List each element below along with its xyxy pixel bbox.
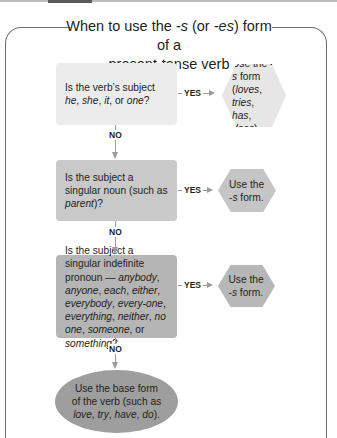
- arrow-right-icon: [209, 90, 215, 96]
- arrow-down-icon: [112, 152, 118, 159]
- text-run: Is the subject a singular noun (such as: [65, 172, 168, 196]
- text-run: each: [104, 285, 126, 296]
- text-run: form.: [238, 192, 264, 203]
- text-run: Use the base form of the verb (such as: [72, 383, 161, 407]
- yes-label: YES: [184, 280, 201, 290]
- text-run: everything: [65, 311, 112, 322]
- no-label: NO: [108, 227, 123, 237]
- text-run: anybody: [118, 272, 157, 283]
- text-run: ,: [259, 84, 262, 95]
- text-run: , or: [130, 324, 145, 335]
- yes-connector-1: YES: [178, 88, 215, 98]
- title-text: -s: [176, 18, 188, 34]
- text-run: everybody: [65, 298, 112, 309]
- outcome-text: Use the -s form.: [229, 178, 265, 204]
- text-run: neither: [118, 311, 149, 322]
- text-run: ?: [144, 95, 150, 106]
- text-run: loves: [235, 84, 259, 95]
- yes-label: YES: [184, 185, 201, 195]
- decision-box-2: Is the subject a singular noun (such as …: [56, 160, 177, 221]
- no-label: NO: [108, 130, 123, 140]
- yes-connector-2: YES: [178, 185, 213, 195]
- text-run: love: [73, 409, 92, 420]
- text-run: has: [232, 110, 248, 121]
- decision-box-3: Is the subject a singular indefinite pro…: [56, 255, 177, 338]
- text-run: ,: [251, 97, 254, 108]
- outcome-text: Use the -s form (loves, tries, has, does…: [232, 57, 276, 135]
- decision-text: Is the subject a singular indefinite pro…: [65, 244, 169, 350]
- arrow-right-icon: [207, 282, 213, 288]
- text-run: ,: [163, 298, 166, 309]
- text-run: ,: [157, 272, 160, 283]
- arrow-right-icon: [207, 187, 213, 193]
- text-run: anyone: [65, 285, 98, 296]
- connector-line: [178, 190, 182, 191]
- final-outcome-ellipse: Use the base form of the verb (such as l…: [55, 370, 178, 433]
- text-run: form.: [237, 287, 263, 298]
- title-text: When to use the: [66, 18, 176, 34]
- arrow-down-icon: [112, 247, 118, 254]
- no-label: NO: [108, 344, 123, 354]
- text-run: parent: [65, 198, 94, 209]
- decision-box-1: Is the verb’s subject he, she, it, or on…: [56, 63, 177, 125]
- text-run: do: [142, 409, 153, 420]
- connector-line: [178, 93, 182, 94]
- outcome-text: Use the -s form.: [229, 273, 265, 299]
- text-run: ).: [154, 409, 160, 420]
- title-text: -es: [214, 18, 234, 34]
- title-text: (or: [188, 18, 214, 34]
- arrow-down-icon: [112, 362, 118, 369]
- text-run: ,: [248, 110, 251, 121]
- text-run: he: [65, 95, 76, 106]
- text-run: ,: [157, 285, 160, 296]
- text-run: tries: [232, 97, 251, 108]
- text-run: )?: [94, 198, 103, 209]
- text-run: she: [82, 95, 98, 106]
- text-run: , or: [109, 95, 127, 106]
- text-run: one: [127, 95, 144, 106]
- connector-line: [178, 285, 182, 286]
- decision-text: Is the verb’s subject he, she, it, or on…: [65, 81, 169, 107]
- yes-label: YES: [184, 88, 201, 98]
- text-run: try: [98, 409, 109, 420]
- yes-connector-3: YES: [178, 280, 213, 290]
- top-rule-accent: [48, 0, 92, 3]
- text-run: Is the verb’s subject: [65, 82, 155, 93]
- text-run: every-one: [118, 298, 163, 309]
- text-run: something: [65, 338, 112, 349]
- text-run: either: [132, 285, 157, 296]
- text-run: someone: [88, 324, 130, 335]
- final-text: Use the base form of the verb (such as l…: [72, 382, 162, 421]
- decision-text: Is the subject a singular noun (such as …: [65, 171, 169, 211]
- text-run: have: [115, 409, 137, 420]
